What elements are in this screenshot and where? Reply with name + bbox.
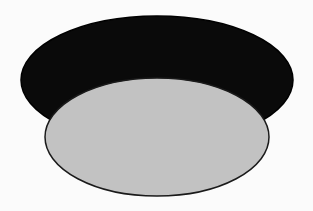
front-gray-ellipse bbox=[45, 78, 269, 196]
diagram-canvas bbox=[0, 0, 313, 211]
overlapping-ellipses-diagram bbox=[0, 0, 313, 211]
